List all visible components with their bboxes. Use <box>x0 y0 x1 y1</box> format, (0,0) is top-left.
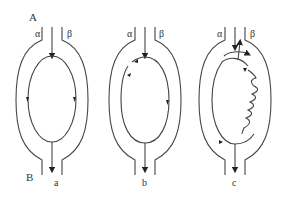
panel-label-c: c <box>232 177 237 188</box>
label-B: B <box>26 171 33 183</box>
alpha-c: α <box>217 28 223 39</box>
beta-c: β <box>250 28 255 39</box>
panel-label-a: a <box>54 177 59 188</box>
alpha-a: α <box>35 28 41 39</box>
beta-a: β <box>67 28 72 39</box>
panel-a <box>16 27 88 175</box>
panel-label-b: b <box>142 177 147 188</box>
panel-c <box>199 27 271 175</box>
panel-b <box>109 27 181 175</box>
interference-diagram: A B α β a α β b α β c <box>0 0 286 203</box>
alpha-b: α <box>127 28 133 39</box>
beta-b: β <box>159 28 164 39</box>
label-A: A <box>29 11 37 23</box>
